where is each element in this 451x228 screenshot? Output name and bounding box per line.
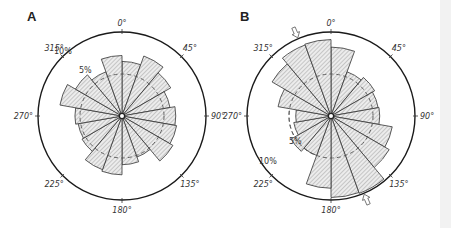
panel-letter-b: B xyxy=(240,9,249,24)
ring-label-5-percent: 5% xyxy=(79,66,92,75)
angle-label-315: 315° xyxy=(253,44,272,53)
angle-label-45: 45° xyxy=(183,44,197,53)
angle-label-270: 270° xyxy=(223,112,242,121)
angle-label-180: 180° xyxy=(112,206,131,215)
angle-label-45: 45° xyxy=(392,44,406,53)
ring-label-10-percent: 10% xyxy=(259,157,277,166)
angle-label-0: 0° xyxy=(117,19,126,28)
angle-label-0: 0° xyxy=(326,19,335,28)
rose-diagram-a: A 0°45°90°135°180°225°270°315°5%10% xyxy=(14,9,225,215)
angle-label-135: 135° xyxy=(180,180,199,189)
angle-label-225: 225° xyxy=(44,180,63,189)
rose-diagrams-figure: A 0°45°90°135°180°225°270°315°5%10% B 0°… xyxy=(0,0,451,228)
angle-label-90: 90° xyxy=(420,112,434,121)
angle-label-225: 225° xyxy=(253,180,272,189)
angle-label-270: 270° xyxy=(14,112,33,121)
ring-label-5-percent: 5% xyxy=(289,137,302,146)
direction-arrow-157 xyxy=(363,194,371,205)
angle-label-180: 180° xyxy=(321,206,340,215)
angle-label-135: 135° xyxy=(389,180,408,189)
panel-letter-a: A xyxy=(27,9,37,24)
sectors xyxy=(60,56,177,175)
rose-diagram-b: B 0°45°90°135°180°225°270°315°5%10% xyxy=(223,9,434,215)
ring-label-10-percent: 10% xyxy=(54,47,72,56)
center-hub xyxy=(328,113,333,118)
direction-arrow-337 xyxy=(292,27,300,38)
center-hub xyxy=(119,113,124,118)
